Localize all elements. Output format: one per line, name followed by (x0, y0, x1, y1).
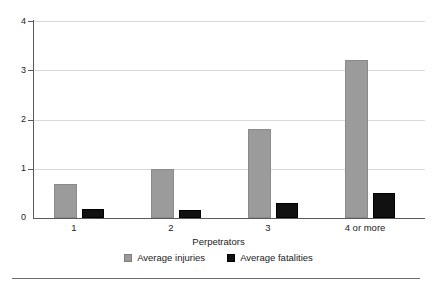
y-axis-tick-labels: 4 3 2 1 0 (0, 0, 26, 295)
x-tick-label-2: 2 (141, 222, 201, 233)
bar-fatalities-2[interactable] (179, 210, 201, 218)
x-axis-title: Perpetrators (0, 236, 437, 247)
bar-fatalities-3[interactable] (276, 203, 298, 218)
legend-swatch-gray-icon (124, 254, 132, 262)
bar-chart-figure: 4 3 2 1 0 (0, 0, 437, 295)
chart-legend: Average injuries Average fatalities (0, 252, 437, 263)
bar-group-2 (151, 21, 241, 218)
bar-group-3 (248, 21, 338, 218)
bar-fatalities-1[interactable] (82, 209, 104, 218)
legend-entry-fatalities[interactable]: Average fatalities (227, 252, 313, 263)
footer-divider (12, 278, 420, 279)
bar-injuries-2[interactable] (151, 169, 174, 218)
legend-swatch-black-icon (227, 254, 235, 262)
legend-label-injuries: Average injuries (137, 252, 205, 263)
legend-entry-injuries[interactable]: Average injuries (124, 252, 205, 263)
x-tick-label-1: 1 (44, 222, 104, 233)
plot-area (34, 21, 425, 218)
x-tick-label-4-or-more: 4 or more (335, 222, 395, 233)
y-tick-label-2: 2 (2, 115, 26, 124)
bar-group-1 (54, 21, 144, 218)
bar-injuries-4[interactable] (345, 60, 368, 218)
bar-fatalities-4[interactable] (373, 193, 395, 218)
x-axis-line (33, 218, 425, 219)
bar-injuries-3[interactable] (248, 129, 271, 218)
legend-label-fatalities: Average fatalities (240, 252, 313, 263)
bar-injuries-1[interactable] (54, 184, 77, 219)
bar-group-4 (345, 21, 435, 218)
y-tick-label-1: 1 (2, 164, 26, 173)
y-tick-label-4: 4 (2, 17, 26, 26)
y-tick-label-3: 3 (2, 66, 26, 75)
y-tick-label-0: 0 (2, 213, 26, 222)
x-tick-label-3: 3 (238, 222, 298, 233)
